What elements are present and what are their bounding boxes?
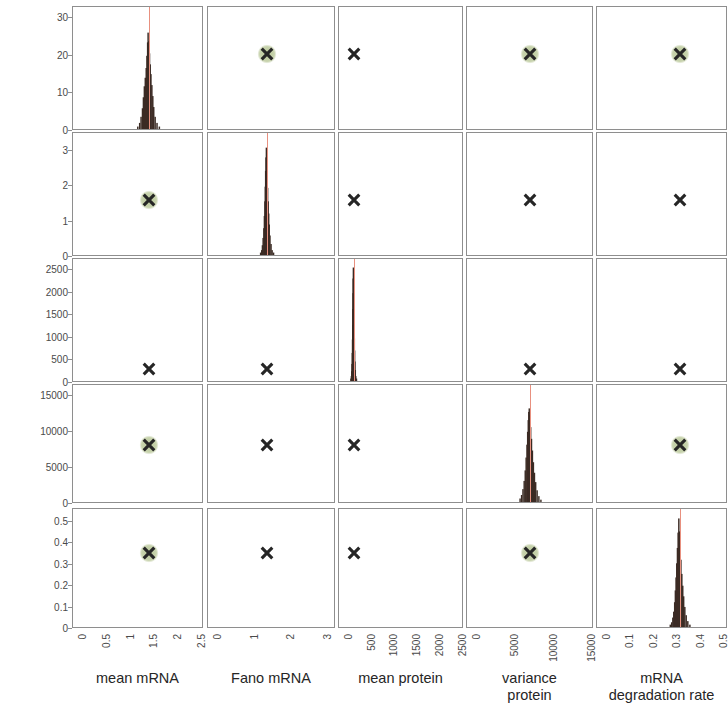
- scatter-panel-1-3: [466, 132, 593, 256]
- x-axis-tick-label: 0: [343, 634, 354, 640]
- truth-x-marker: [259, 436, 276, 453]
- y-axis-tick-label: 0.4: [54, 537, 68, 548]
- y-axis-tick-mark: [68, 628, 72, 629]
- x-axis-tick-label: 1: [249, 634, 260, 640]
- scatter-panel-0-1: [207, 6, 335, 130]
- y-axis-tick-label: 1500: [46, 309, 68, 320]
- x-axis-tick-label: 2: [285, 634, 296, 640]
- y-axis-tick-label: 2000: [46, 286, 68, 297]
- y-axis-tick-label: 10: [57, 87, 68, 98]
- y-axis-tick-mark: [68, 542, 72, 543]
- y-axis-tick-mark: [68, 269, 72, 270]
- scatter-panel-2-1: [207, 258, 335, 382]
- y-axis-tick-label: 10000: [40, 425, 68, 436]
- x-axis-tick-label: 2500: [457, 634, 468, 656]
- x-axis-tick-label: 500: [366, 634, 377, 651]
- y-axis-tick-mark: [68, 431, 72, 432]
- scatter-panel-2-0: [72, 258, 203, 382]
- truth-x-marker: [345, 436, 362, 453]
- histogram-panel-1-1: [207, 132, 335, 256]
- x-axis-tick-label: 0.5: [101, 634, 112, 648]
- y-axis-tick-mark: [68, 521, 72, 522]
- scatter-panel-4-1: [207, 508, 335, 628]
- truth-x-marker: [672, 46, 689, 63]
- y-axis-tick-label: 5000: [46, 461, 68, 472]
- scatter-panel-1-0: [72, 132, 203, 256]
- y-axis-tick-label: 0.3: [54, 558, 68, 569]
- pairs-plot-figure: 0102030012305001000150020002500050001000…: [0, 0, 728, 716]
- ground-truth-line: [354, 259, 355, 381]
- y-axis-tick-label: 2500: [46, 264, 68, 275]
- y-axis-tick-label: 0.1: [54, 601, 68, 612]
- y-axis-tick-label: 0.5: [54, 515, 68, 526]
- x-axis-tick-label: 0.3: [671, 634, 682, 648]
- scatter-panel-0-3: [466, 6, 593, 130]
- scatter-panel-3-1: [207, 384, 335, 503]
- truth-x-marker: [522, 191, 539, 208]
- y-axis-tick-label: 20: [57, 49, 68, 60]
- scatter-panel-1-4: [596, 132, 727, 256]
- y-axis-tick-mark: [68, 337, 72, 338]
- y-axis-tick-mark: [68, 150, 72, 151]
- scatter-panel-2-3: [466, 258, 593, 382]
- scatter-panel-4-3: [466, 508, 593, 628]
- y-axis-tick-mark: [68, 503, 72, 504]
- truth-x-marker: [522, 46, 539, 63]
- y-axis-tick-mark: [68, 395, 72, 396]
- truth-x-marker: [141, 436, 158, 453]
- scatter-panel-3-4: [596, 384, 727, 503]
- scatter-panel-3-0: [72, 384, 203, 503]
- histogram-bars: [339, 259, 462, 381]
- y-axis-tick-mark: [68, 607, 72, 608]
- x-axis-tick-label: 1: [125, 634, 136, 640]
- scatter-panel-4-0: [72, 508, 203, 628]
- scatter-panel-0-2: [338, 6, 463, 130]
- column-label-line: mRNA: [572, 670, 728, 687]
- column-label-line: degradation rate: [572, 687, 728, 704]
- truth-x-marker: [672, 191, 689, 208]
- x-axis-tick-label: 1.5: [148, 634, 159, 648]
- scatter-panel-1-2: [338, 132, 463, 256]
- y-axis-tick-mark: [68, 292, 72, 293]
- histogram-panel-2-2: [338, 258, 463, 382]
- histogram-panel-3-3: [466, 384, 593, 503]
- truth-x-marker: [141, 544, 158, 561]
- ground-truth-line: [680, 509, 681, 627]
- y-axis-tick-mark: [68, 314, 72, 315]
- x-axis-tick-label: 0.5: [718, 634, 728, 648]
- x-axis-tick-label: 0.2: [648, 634, 659, 648]
- truth-x-marker: [259, 46, 276, 63]
- x-axis-tick-label: 0.4: [695, 634, 706, 648]
- histogram-panel-0-0: [72, 6, 203, 130]
- x-axis-tick-label: 3: [322, 634, 333, 640]
- truth-x-marker: [141, 191, 158, 208]
- y-axis-tick-mark: [68, 585, 72, 586]
- x-axis-tick-label: 1000: [388, 634, 399, 656]
- y-axis-tick-label: 1000: [46, 331, 68, 342]
- ground-truth-line: [267, 133, 268, 255]
- y-axis-tick-mark: [68, 256, 72, 257]
- x-axis-tick-label: 0: [601, 634, 612, 640]
- truth-x-marker: [672, 436, 689, 453]
- x-axis-tick-label: 0.1: [624, 634, 635, 648]
- x-axis-tick-label: 2: [172, 634, 183, 640]
- y-axis-tick-mark: [68, 130, 72, 131]
- truth-x-marker: [141, 360, 158, 377]
- truth-x-marker: [345, 46, 362, 63]
- scatter-panel-4-2: [338, 508, 463, 628]
- y-axis-tick-label: 500: [51, 354, 68, 365]
- ground-truth-line: [149, 7, 150, 129]
- truth-x-marker: [522, 360, 539, 377]
- x-axis-tick-label: 0: [212, 634, 223, 640]
- y-axis-tick-mark: [68, 185, 72, 186]
- y-axis-tick-mark: [68, 467, 72, 468]
- y-axis-tick-label: 0.2: [54, 580, 68, 591]
- histogram-panel-4-4: [596, 508, 727, 628]
- y-axis-tick-label: 15000: [40, 389, 68, 400]
- histogram-bars: [73, 7, 202, 129]
- column-axis-label-4: mRNAdegradation rate: [572, 670, 728, 705]
- truth-x-marker: [345, 544, 362, 561]
- truth-x-marker: [522, 544, 539, 561]
- y-axis-tick-label: 30: [57, 12, 68, 23]
- x-axis-tick-label: 2.5: [196, 634, 207, 648]
